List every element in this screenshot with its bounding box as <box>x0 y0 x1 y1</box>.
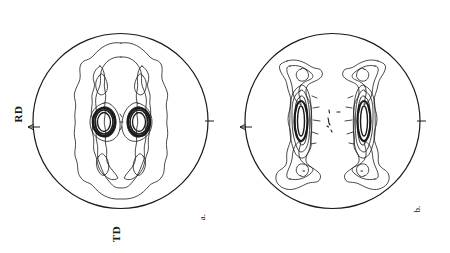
panel-a-contour-level-1-outer <box>74 43 167 199</box>
panel-b-left-lobe-upper-inner-loop <box>296 68 308 81</box>
panel-b-right-lobe-edge-ticks <box>345 96 354 144</box>
panel-a-caption: a. <box>197 214 207 220</box>
panel-b-left-arrow-icon <box>240 125 252 130</box>
panel-b-left-lobe-level-2-lower-hook <box>287 140 313 180</box>
panel-b-left-lobe-edge-ticks <box>311 96 320 144</box>
panel-b-caption: b. <box>412 206 422 213</box>
pole-figure-panel-a <box>28 34 214 209</box>
pole-figure-pair <box>0 0 450 253</box>
td-axis-label: TD <box>110 226 122 242</box>
panel-b-centre-stray-marks <box>327 110 340 132</box>
panel-b-right-lobe-level-1 <box>343 60 390 190</box>
pole-figure-panel-b <box>240 34 426 209</box>
rd-axis-label: RD <box>12 106 24 123</box>
panel-a-contour-level-1-inner <box>96 57 147 188</box>
panel-b-right-lobe-lower-inner-loop <box>357 164 369 177</box>
panel-a-outer-circle <box>33 34 208 209</box>
panel-b-right-lobe-upper-inner-loop <box>357 68 369 81</box>
panel-b-outer-circle <box>245 34 420 209</box>
panel-b-left-lobe-maximum-outer <box>295 101 308 141</box>
panel-a-contour-level-2-upper-left-loop <box>96 74 108 95</box>
panel-b-right-lobe-maximum-core <box>361 106 368 136</box>
panel-b-left-lobe-level-1 <box>276 60 323 190</box>
panel-a-maximum-right-core <box>133 113 146 132</box>
panel-a-centre-saddle-marks <box>120 114 123 130</box>
panel-b-left-lobe-lower-inner-loop <box>296 164 308 177</box>
panel-b-right-lobe-maximum-outer <box>358 101 371 141</box>
panel-b-left-lobe-maximum-core <box>298 106 305 136</box>
panel-a-rd-arrow-icon <box>28 125 40 130</box>
panel-a-contour-level-2-upper-right-loop <box>135 74 147 95</box>
panel-b-right-lobe-level-2-lower-hook <box>352 140 378 180</box>
